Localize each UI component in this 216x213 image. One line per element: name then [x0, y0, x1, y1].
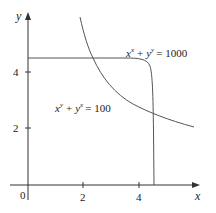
- y-axis-label: y: [15, 9, 22, 23]
- y-tick-label-4: 4: [13, 66, 19, 78]
- chart: 0 2 4 2 4 x y xx+yy= 1000 xy+yx= 100: [0, 0, 216, 213]
- eq2-rhs: = 100: [85, 102, 111, 114]
- eq2-sup-x: x: [79, 101, 84, 109]
- eq2-sup-y: y: [59, 101, 64, 109]
- eq1-sup-y: y: [150, 46, 155, 54]
- eq1-rhs: = 1000: [156, 47, 187, 59]
- equation-label-100: xy+yx= 100: [54, 101, 111, 114]
- y-axis-arrow-icon: [25, 12, 31, 20]
- equation-label-1000: xx+yy= 1000: [125, 46, 188, 59]
- ticks: [25, 72, 139, 188]
- x-tick-label-2: 2: [80, 191, 86, 203]
- eq2-plus: +: [66, 102, 72, 114]
- x-axis-arrow-icon: [192, 182, 200, 188]
- x-tick-label-4: 4: [136, 191, 142, 203]
- origin-label: 0: [20, 189, 26, 201]
- y-tick-label-2: 2: [13, 122, 19, 134]
- eq1-plus: +: [137, 47, 143, 59]
- curve-xx-yy-1000: [28, 58, 154, 185]
- eq1-sup-x: x: [130, 46, 135, 54]
- x-axis-label: x: [194, 189, 201, 203]
